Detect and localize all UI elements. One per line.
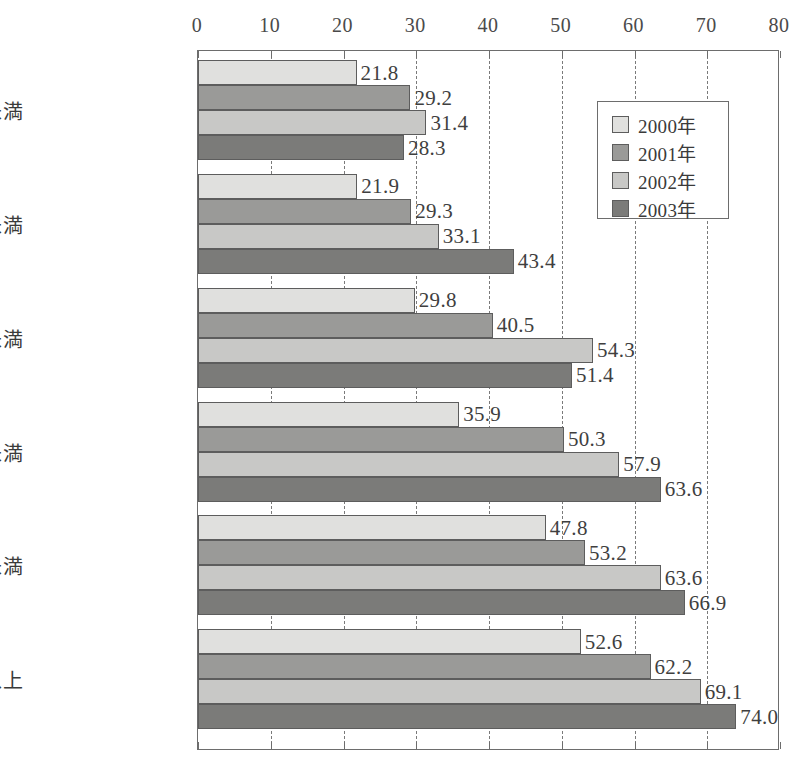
bar-2002年-800〜1000万未満[interactable]	[198, 565, 661, 590]
bar-value-label: 57.9	[623, 452, 661, 477]
bar-row: 35.9	[198, 402, 778, 427]
bar-row: 52.6	[198, 629, 778, 654]
bar-2003年-200〜400万未満[interactable]	[198, 249, 514, 274]
tickmark-top-40	[489, 51, 490, 58]
bar-value-label: 35.9	[463, 402, 501, 427]
bar-2003年-600〜800万未満[interactable]	[198, 477, 661, 502]
tickmark-top-30	[416, 51, 417, 58]
tickmark-bottom-10	[271, 742, 272, 749]
bar-2000年-800〜1000万未満[interactable]	[198, 515, 546, 540]
bar-row: 47.8	[198, 515, 778, 540]
bar-2000年-200万未満[interactable]	[198, 60, 357, 85]
bar-2001年-1000万以上[interactable]	[198, 654, 651, 679]
x-axis-tick-60: 60	[623, 14, 644, 37]
bar-2001年-200万未満[interactable]	[198, 85, 410, 110]
bar-group: 52.662.269.174.0	[198, 629, 778, 729]
bar-chart: 01020304050607080 200万未満200〜400万未満400〜60…	[0, 0, 812, 770]
bar-value-label: 21.9	[361, 174, 399, 199]
bar-group: 47.853.263.666.9	[198, 515, 778, 615]
x-axis-tick-50: 50	[550, 14, 571, 37]
x-axis-tick-20: 20	[332, 14, 353, 37]
bar-2003年-800〜1000万未満[interactable]	[198, 590, 685, 615]
bar-2003年-1000万以上[interactable]	[198, 704, 736, 729]
tickmark-top-70	[707, 51, 708, 58]
bar-row: 40.5	[198, 313, 778, 338]
bar-row: 63.6	[198, 477, 778, 502]
x-axis-tick-10: 10	[259, 14, 280, 37]
bar-2001年-800〜1000万未満[interactable]	[198, 540, 585, 565]
tickmark-top-50	[562, 51, 563, 58]
bar-row: 21.8	[198, 60, 778, 85]
bar-2000年-400〜600万未満[interactable]	[198, 288, 415, 313]
tickmark-top-80	[780, 51, 781, 58]
bar-2000年-1000万以上[interactable]	[198, 629, 581, 654]
bar-value-label: 63.6	[665, 565, 703, 590]
legend-swatch-icon	[612, 116, 629, 133]
bar-row: 50.3	[198, 427, 778, 452]
category-label-800〜1000万未満: 800〜1000万未満	[0, 551, 23, 580]
legend-swatch-icon	[612, 200, 629, 217]
bar-row: 29.8	[198, 288, 778, 313]
bar-value-label: 69.1	[705, 679, 743, 704]
bar-2000年-200〜400万未満[interactable]	[198, 174, 357, 199]
bar-2001年-600〜800万未満[interactable]	[198, 427, 564, 452]
legend-item-2001年[interactable]: 2001年	[612, 139, 728, 166]
bar-value-label: 40.5	[497, 313, 535, 338]
bar-value-label: 47.8	[550, 515, 588, 540]
tickmark-bottom-50	[562, 742, 563, 749]
bar-row: 66.9	[198, 590, 778, 615]
bar-value-label: 51.4	[576, 363, 614, 388]
category-label-1000万以上: 1000万以上	[0, 665, 23, 694]
bar-value-label: 52.6	[585, 629, 623, 654]
x-axis-tick-70: 70	[696, 14, 717, 37]
tickmark-bottom-40	[489, 742, 490, 749]
legend-label: 2000年	[638, 111, 697, 138]
bar-2001年-200〜400万未満[interactable]	[198, 199, 411, 224]
bar-2003年-200万未満[interactable]	[198, 135, 404, 160]
x-axis-tick-40: 40	[478, 14, 499, 37]
tickmark-top-20	[344, 51, 345, 58]
legend-label: 2001年	[638, 139, 697, 166]
bar-value-label: 21.8	[361, 60, 399, 85]
bar-value-label: 53.2	[589, 540, 627, 565]
bar-value-label: 50.3	[568, 427, 606, 452]
bar-row: 63.6	[198, 565, 778, 590]
bar-row: 57.9	[198, 452, 778, 477]
tickmark-bottom-60	[635, 742, 636, 749]
bar-2002年-600〜800万未満[interactable]	[198, 452, 619, 477]
bar-2003年-400〜600万未満[interactable]	[198, 363, 572, 388]
tickmark-top-0	[198, 51, 199, 58]
x-axis-tick-80: 80	[769, 14, 790, 37]
bar-2002年-200〜400万未満[interactable]	[198, 224, 439, 249]
legend-label: 2002年	[638, 167, 697, 194]
tickmark-bottom-0	[198, 742, 199, 749]
category-label-200〜400万未満: 200〜400万未満	[0, 210, 23, 239]
tickmark-bottom-70	[707, 742, 708, 749]
bar-value-label: 33.1	[443, 224, 481, 249]
legend-item-2000年[interactable]: 2000年	[612, 111, 728, 138]
tickmark-top-60	[635, 51, 636, 58]
legend-item-2002年[interactable]: 2002年	[612, 167, 728, 194]
bar-group: 29.840.554.351.4	[198, 288, 778, 388]
x-axis-tick-30: 30	[405, 14, 426, 37]
bar-row: 53.2	[198, 540, 778, 565]
bar-value-label: 62.2	[655, 654, 693, 679]
tickmark-bottom-30	[416, 742, 417, 749]
bar-2002年-200万未満[interactable]	[198, 110, 426, 135]
bar-2002年-1000万以上[interactable]	[198, 679, 701, 704]
bar-2001年-400〜600万未満[interactable]	[198, 313, 493, 338]
bar-group: 35.950.357.963.6	[198, 402, 778, 502]
bar-value-label: 28.3	[408, 135, 446, 160]
legend-item-2003年[interactable]: 2003年	[612, 195, 728, 222]
bar-value-label: 29.3	[415, 199, 453, 224]
bar-value-label: 74.0	[740, 704, 778, 729]
legend-swatch-icon	[612, 172, 629, 189]
category-label-600〜800万未満: 600〜800万未満	[0, 438, 23, 467]
bar-value-label: 31.4	[430, 110, 468, 135]
bar-value-label: 66.9	[689, 590, 727, 615]
bar-value-label: 29.2	[414, 85, 452, 110]
bar-2000年-600〜800万未満[interactable]	[198, 402, 459, 427]
tickmark-bottom-20	[344, 742, 345, 749]
bar-value-label: 63.6	[665, 477, 703, 502]
bar-2002年-400〜600万未満[interactable]	[198, 338, 593, 363]
